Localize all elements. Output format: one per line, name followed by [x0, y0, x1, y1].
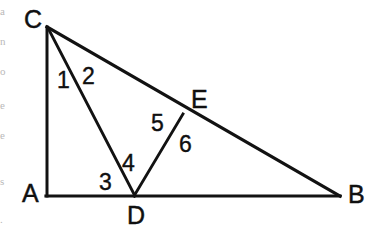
vertex-label-E: E [191, 85, 208, 113]
vertex-label-B: B [348, 180, 365, 208]
vertex-label-C: C [24, 5, 42, 33]
vertex-label-D: D [127, 201, 145, 229]
angle-label-4: 4 [122, 150, 135, 176]
margin-fragment: a [0, 6, 9, 17]
angle-label-5: 5 [151, 110, 164, 136]
angle-label-6: 6 [179, 131, 192, 157]
margin-fragment: e [0, 100, 9, 111]
geometry-figure: C A B D E 1 2 3 4 5 6 a n o e e s . [0, 0, 378, 251]
angle-label-3: 3 [99, 169, 112, 195]
angle-label-1: 1 [57, 67, 70, 93]
margin-fragment: s [0, 176, 9, 187]
margin-fragment: e [0, 130, 9, 141]
angle-label-2: 2 [82, 63, 95, 89]
figure-canvas: C A B D E 1 2 3 4 5 6 [0, 0, 378, 251]
margin-fragment: . [0, 214, 9, 225]
vertex-label-A: A [22, 179, 39, 207]
margin-fragment: o [0, 66, 9, 77]
margin-fragment: n [0, 36, 9, 47]
